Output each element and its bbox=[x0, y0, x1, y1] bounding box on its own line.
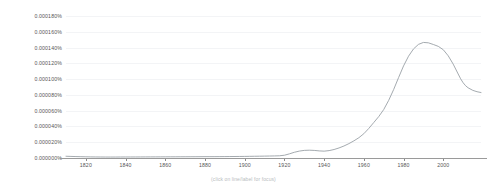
x-axis: 1820184018601880190019201940196019802000 bbox=[0, 159, 487, 171]
x-tick-label: 1920 bbox=[278, 162, 290, 169]
y-tick-label: 0.000040% bbox=[34, 123, 62, 129]
y-tick-label: 0.000080% bbox=[34, 92, 62, 98]
x-tick-label: 2000 bbox=[437, 162, 449, 169]
x-tick-mark bbox=[284, 159, 285, 161]
y-tick-label: 0.000060% bbox=[34, 108, 62, 114]
y-tick-label: 0.000120% bbox=[34, 60, 62, 66]
plot-area bbox=[66, 10, 481, 158]
x-tick-label: 1960 bbox=[358, 162, 370, 169]
x-tick-label: 1880 bbox=[199, 162, 211, 169]
y-tick-label: 0.000140% bbox=[34, 45, 62, 51]
series-layer bbox=[66, 10, 481, 158]
x-tick-mark bbox=[404, 159, 405, 161]
x-tick-label: 1860 bbox=[159, 162, 171, 169]
y-axis: 0.000180%0.000160%0.000140%0.000120%0.00… bbox=[0, 0, 66, 175]
ngram-chart: 0.000180%0.000160%0.000140%0.000120%0.00… bbox=[0, 0, 487, 189]
x-tick-label: 1820 bbox=[80, 162, 92, 169]
x-tick-mark bbox=[245, 159, 246, 161]
x-tick-mark bbox=[324, 159, 325, 161]
x-tick-mark bbox=[205, 159, 206, 161]
y-tick-label: 0.000160% bbox=[34, 29, 62, 35]
y-tick-label: 0.000180% bbox=[34, 13, 62, 19]
x-tick-label: 1840 bbox=[119, 162, 131, 169]
x-tick-label: 1900 bbox=[239, 162, 251, 169]
y-tick-label: 0.000020% bbox=[34, 139, 62, 145]
x-tick-label: 1980 bbox=[397, 162, 409, 169]
x-tick-mark bbox=[126, 159, 127, 161]
focus-hint: (click on line/label for focus) bbox=[0, 175, 487, 183]
x-tick-mark bbox=[86, 159, 87, 161]
line-series-comparative-advantage[interactable] bbox=[66, 42, 481, 157]
y-tick-label: 0.000100% bbox=[34, 76, 62, 82]
x-tick-mark bbox=[165, 159, 166, 161]
x-tick-mark bbox=[443, 159, 444, 161]
x-tick-label: 1940 bbox=[318, 162, 330, 169]
x-tick-mark bbox=[364, 159, 365, 161]
